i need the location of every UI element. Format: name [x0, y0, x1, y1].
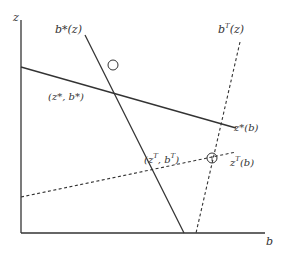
b-T-curve	[196, 42, 240, 233]
b-star-curve	[85, 35, 184, 233]
nash-equilibrium-label: (z*, b*)	[48, 91, 84, 102]
x-axis-label: b	[266, 235, 273, 248]
z-T-curve	[21, 152, 236, 197]
diagram-canvas: z b b*(z) z*(b) bT(z) zT(b) (z*, b*) (zT…	[0, 0, 288, 253]
z-T-label: zT(b)	[229, 155, 254, 168]
b-T-label: bT(z)	[218, 22, 244, 36]
b-star-label: b*(z)	[55, 23, 82, 36]
nash-equilibrium-marker	[108, 60, 118, 70]
y-axis-label: z	[12, 11, 19, 24]
z-star-label: z*(b)	[233, 122, 259, 133]
team-point-label: (zT, bT)	[144, 152, 179, 165]
